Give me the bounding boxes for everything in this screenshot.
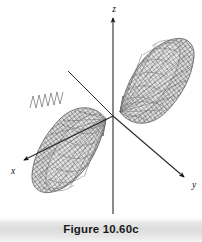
- surface-right-nappe: [120, 38, 194, 123]
- axis-y: y: [113, 116, 197, 190]
- axis-z-label: z: [111, 4, 116, 14]
- plot-area: z: [0, 0, 202, 218]
- surface-left-upper-fringe: [30, 92, 63, 108]
- axis-x-label: x: [10, 166, 16, 176]
- surface-left-nappe: [30, 92, 106, 193]
- axis-z: z: [111, 4, 116, 214]
- figure-caption-band: Figure 10.60c: [0, 218, 202, 242]
- figure-container: z: [0, 0, 202, 242]
- axis-y-line: [113, 116, 184, 177]
- figure-caption-text: Figure 10.60c: [63, 224, 138, 236]
- axis-y-label: y: [191, 180, 197, 190]
- sawtooth-path-left-upper: [30, 92, 63, 108]
- surface-plot-svg: z: [0, 0, 202, 218]
